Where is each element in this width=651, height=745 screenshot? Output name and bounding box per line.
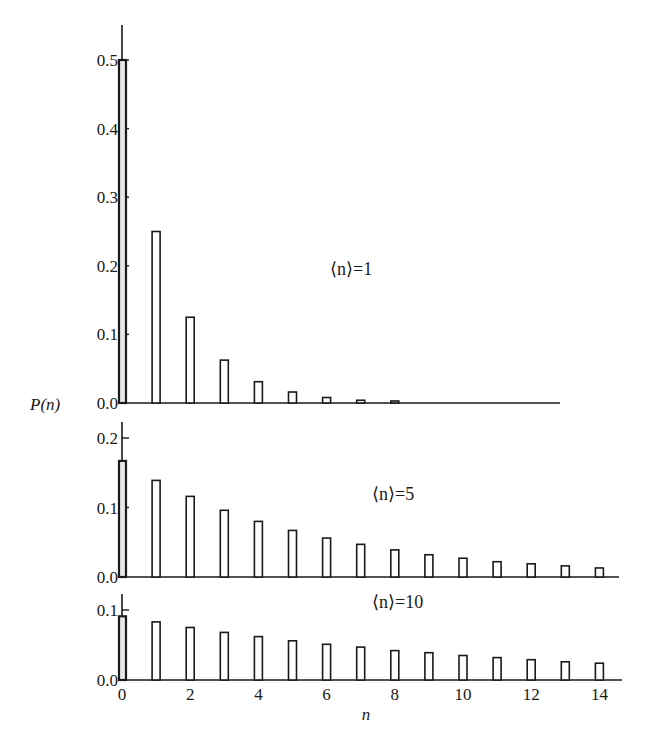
bar-n-4 (254, 382, 262, 403)
x-tick-label: 10 (455, 685, 472, 704)
x-tick-label: 0 (118, 685, 127, 704)
y-tick-label: 0.1 (97, 601, 118, 620)
y-tick-label: 0.4 (97, 120, 119, 139)
bar-n-11 (493, 562, 501, 577)
bar-n-5 (289, 392, 297, 403)
bar-n-13 (561, 566, 569, 577)
bar-n-9 (425, 653, 433, 680)
bar-n-4 (254, 521, 262, 577)
bar-n-6 (323, 398, 331, 403)
bar-n-0 (119, 616, 126, 680)
y-axis-label: P(n) (29, 395, 61, 414)
bar-n-6 (323, 644, 331, 680)
bar-n-7 (357, 400, 365, 403)
x-tick-label: 6 (322, 685, 331, 704)
bar-n-7 (357, 647, 365, 680)
x-tick-label: 12 (523, 685, 540, 704)
x-tick-labels: 02468101214 (118, 685, 609, 704)
y-tick-label: 0.0 (97, 568, 118, 587)
bar-n-13 (561, 662, 569, 680)
y-tick-label: 0.0 (97, 671, 118, 690)
panel-mean-1: 0.00.10.20.30.40.5⟨n⟩=1 (97, 25, 560, 413)
bar-n-8 (391, 550, 399, 577)
bar-n-0 (119, 60, 126, 403)
x-tick-label: 2 (186, 685, 195, 704)
bar-n-2 (186, 496, 194, 577)
bar-n-2 (186, 628, 194, 681)
bar-n-1 (152, 480, 160, 577)
bar-n-10 (459, 656, 467, 681)
bar-n-4 (254, 637, 262, 680)
bar-n-1 (152, 622, 160, 680)
panel-mean-5: 0.00.10.2⟨n⟩=5 (97, 422, 619, 587)
y-tick-label: 0.2 (97, 257, 118, 276)
bar-n-5 (289, 641, 297, 680)
panel-label: ⟨n⟩=1 (330, 259, 372, 279)
bar-n-0 (119, 461, 126, 577)
x-axis-label: n (362, 705, 371, 724)
bar-n-3 (220, 360, 228, 403)
bar-n-1 (152, 232, 160, 404)
y-tick-label: 0.1 (97, 499, 118, 518)
bar-n-11 (493, 658, 501, 680)
bar-n-3 (220, 510, 228, 577)
bar-n-6 (323, 538, 331, 577)
y-tick-label: 0.1 (97, 325, 118, 344)
bar-n-14 (595, 663, 603, 680)
bar-n-9 (425, 555, 433, 577)
y-tick-label: 0.3 (97, 188, 118, 207)
y-tick-label: 0.0 (97, 394, 118, 413)
y-tick-label: 0.5 (97, 51, 118, 70)
chart-panels: 0.00.10.20.30.40.5⟨n⟩=10.00.10.2⟨n⟩=50.0… (97, 25, 622, 704)
x-tick-label: 14 (591, 685, 609, 704)
bar-n-7 (357, 544, 365, 577)
y-tick-label: 0.2 (97, 429, 118, 448)
x-tick-label: 8 (391, 685, 400, 704)
bar-n-14 (595, 568, 603, 577)
panel-label: ⟨n⟩=5 (372, 484, 414, 504)
photon-distribution-chart: 0.00.10.20.30.40.5⟨n⟩=10.00.10.2⟨n⟩=50.0… (0, 0, 651, 745)
panel-mean-10: 0.00.1⟨n⟩=10 (97, 592, 622, 690)
bar-n-10 (459, 558, 467, 577)
bar-n-8 (391, 651, 399, 680)
x-tick-label: 4 (254, 685, 263, 704)
bar-n-12 (527, 564, 535, 577)
bar-n-2 (186, 317, 194, 403)
bar-n-3 (220, 632, 228, 680)
bar-n-8 (391, 401, 399, 403)
bar-n-5 (289, 530, 297, 577)
bar-n-12 (527, 660, 535, 680)
panel-label: ⟨n⟩=10 (372, 592, 423, 612)
